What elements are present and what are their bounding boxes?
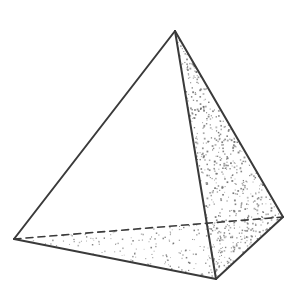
stipple-dot	[204, 246, 205, 247]
stipple-dot	[262, 203, 263, 204]
stipple-dot	[227, 263, 228, 264]
stipple-dot	[216, 239, 218, 241]
stipple-dot	[235, 203, 237, 205]
stipple-dot	[209, 160, 211, 162]
stipple-dot	[194, 71, 195, 72]
stipple-dot	[142, 239, 143, 240]
stipple-dot	[224, 139, 226, 141]
stipple-dot	[243, 161, 244, 162]
stipple-dot	[183, 51, 184, 52]
stipple-dot	[247, 200, 248, 201]
stipple-dot	[81, 241, 82, 242]
stipple-dot	[216, 261, 217, 262]
stipple-dot	[252, 223, 254, 225]
stipple-dot	[210, 195, 211, 196]
stipple-dot	[247, 223, 249, 225]
stipple-dot	[233, 222, 234, 223]
stipple-dot	[221, 239, 223, 241]
stipple-dot	[212, 149, 213, 150]
stipple-dot	[155, 246, 156, 247]
stipple-dot	[209, 192, 211, 194]
stipple-dot	[234, 222, 235, 223]
stipple-dot	[233, 250, 235, 252]
stipple-dot	[229, 233, 230, 234]
stipple-dot	[239, 210, 241, 212]
stipple-dot	[239, 167, 241, 169]
stipple-dot	[203, 143, 204, 144]
stipple-dot	[115, 243, 116, 244]
stipple-dot	[201, 156, 202, 157]
stipple-dot	[241, 239, 242, 240]
stipple-dot	[134, 253, 135, 254]
stipple-dot	[240, 171, 242, 173]
stipple-dot	[205, 205, 207, 207]
stipple-dot	[204, 159, 205, 160]
stipple-dot	[179, 229, 180, 230]
stipple-dot	[258, 204, 260, 206]
stipple-dot	[122, 248, 124, 250]
stipple-dot	[247, 188, 248, 189]
stipple-dot	[218, 152, 219, 153]
stipple-dot	[235, 193, 237, 195]
stipple-dot	[33, 240, 34, 241]
stipple-dot	[215, 230, 216, 231]
stipple-dot	[233, 192, 235, 194]
stipple-dot	[208, 116, 210, 118]
stipple-dot	[206, 235, 207, 236]
stipple-dot	[223, 121, 224, 122]
stipple-dot	[50, 243, 51, 244]
stipple-dot	[241, 203, 243, 205]
stipple-dot	[235, 189, 236, 190]
figure-canvas	[0, 0, 306, 300]
stipple-dot	[209, 228, 210, 229]
stipple-dot	[135, 257, 136, 258]
stipple-dot	[192, 91, 194, 93]
stipple-dot	[195, 114, 197, 116]
stipple-dot	[240, 207, 241, 208]
stipple-dot	[214, 110, 215, 111]
stipple-dot	[216, 269, 217, 270]
stipple-dot	[124, 255, 125, 256]
stipple-dot	[203, 132, 205, 134]
stipple-dot	[196, 71, 198, 73]
stipple-dot	[231, 180, 233, 182]
stipple-dot	[227, 261, 229, 263]
stipple-dot	[196, 79, 198, 81]
stipple-dot	[181, 251, 182, 252]
stipple-dot	[227, 157, 229, 159]
stipple-dot	[218, 231, 219, 232]
stipple-dot	[135, 252, 136, 253]
stipple-dot	[216, 116, 217, 117]
stipple-dot	[79, 242, 80, 243]
stipple-dot	[225, 226, 227, 228]
stipple-dot	[90, 238, 91, 239]
stipple-dot	[56, 245, 57, 246]
stipple-dot	[148, 241, 149, 242]
stipple-dot	[211, 228, 213, 230]
stipple-dot	[158, 234, 159, 235]
stipple-dot	[262, 217, 263, 218]
stipple-dot	[225, 247, 226, 248]
stipple-dot	[199, 96, 201, 98]
stipple-dot	[239, 227, 240, 228]
stipple-dot	[190, 82, 191, 83]
stipple-dot	[235, 215, 236, 216]
stipple-dot	[234, 228, 235, 229]
stipple-dot	[193, 230, 195, 232]
stipple-dot	[194, 109, 196, 111]
stipple-dot	[212, 145, 214, 147]
stipple-dot	[99, 244, 100, 245]
stipple-dot	[151, 254, 152, 255]
stipple-dot	[256, 209, 258, 211]
stipple-dot	[195, 147, 197, 149]
stipple-dot	[172, 229, 173, 230]
stipple-dot	[217, 264, 218, 265]
stipple-dot	[219, 147, 220, 148]
stipple-dot	[260, 199, 261, 200]
stipple-dot	[170, 257, 171, 258]
stipple-dot	[202, 147, 204, 149]
stipple-dot	[192, 118, 193, 119]
stipple-dot	[262, 230, 263, 231]
stipple-dot	[71, 235, 73, 237]
stipple-dot	[198, 229, 199, 230]
